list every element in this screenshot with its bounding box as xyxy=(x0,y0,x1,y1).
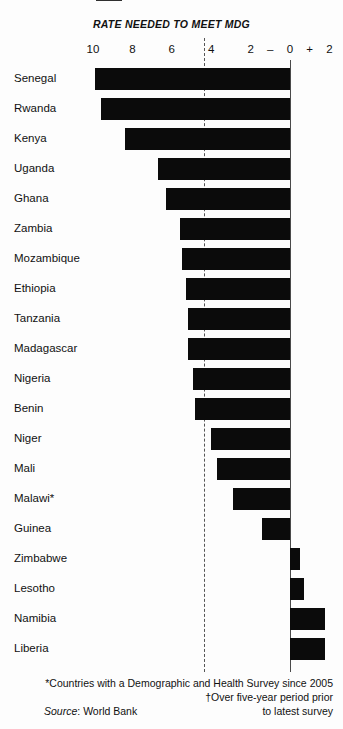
country-label: Mali xyxy=(14,462,35,474)
country-label: Nigeria xyxy=(14,372,50,384)
bar-row: Kenya xyxy=(0,120,343,150)
bar-row: Zambia xyxy=(0,210,343,240)
bar-row: Lesotho xyxy=(0,570,343,600)
country-label: Liberia xyxy=(14,642,49,654)
country-label: Tanzania xyxy=(14,312,60,324)
footnote-dagger-continued: to latest survey xyxy=(262,704,333,718)
bar-ethiopia xyxy=(186,278,290,300)
bar-row: Niger xyxy=(0,420,343,450)
x-tick-: + xyxy=(306,43,313,55)
bar-row: Zimbabwe xyxy=(0,540,343,570)
source-credit: Source: World Bank xyxy=(44,704,137,718)
bar-row: Madagascar xyxy=(0,330,343,360)
bar-row: Uganda xyxy=(0,150,343,180)
bar-row: Malawi* xyxy=(0,480,343,510)
footnote-asterisk: *Countries with a Demographic and Health… xyxy=(0,676,343,690)
x-tick-2: 2 xyxy=(326,43,332,55)
x-tick-6: 6 xyxy=(169,43,175,55)
bar-lesotho xyxy=(290,578,304,600)
country-label: Zimbabwe xyxy=(14,552,67,564)
bar-row: Mali xyxy=(0,450,343,480)
country-label: Lesotho xyxy=(14,582,55,594)
bar-liberia xyxy=(290,638,325,660)
bar-nigeria xyxy=(193,368,290,390)
country-label: Senegal xyxy=(14,72,56,84)
footnote-source-row: Source: World Bank to latest survey xyxy=(0,704,343,718)
bar-tanzania xyxy=(188,308,290,330)
country-label: Ethiopia xyxy=(14,282,56,294)
bar-row: Rwanda xyxy=(0,90,343,120)
country-label: Guinea xyxy=(14,522,51,534)
bar-row: Tanzania xyxy=(0,300,343,330)
bar-row: Namibia xyxy=(0,600,343,630)
country-label: Madagascar xyxy=(14,342,77,354)
x-tick-: – xyxy=(267,43,273,55)
title-fragment-clipped xyxy=(96,0,122,1)
bar-zimbabwe xyxy=(290,548,300,570)
bar-guinea xyxy=(262,518,290,540)
bar-row: Mozambique xyxy=(0,240,343,270)
bar-kenya xyxy=(125,128,290,150)
bar-row: Ethiopia xyxy=(0,270,343,300)
country-label: Namibia xyxy=(14,612,56,624)
bar-ghana xyxy=(166,188,290,210)
bar-row: Nigeria xyxy=(0,360,343,390)
bar-row: Benin xyxy=(0,390,343,420)
country-label: Rwanda xyxy=(14,102,56,114)
bar-madagascar xyxy=(188,338,290,360)
country-label: Kenya xyxy=(14,132,47,144)
footnote-dagger: †Over five-year period prior xyxy=(0,690,343,704)
mdg-reference-caption: RATE NEEDED TO MEET MDG xyxy=(0,18,343,30)
bar-malawi xyxy=(233,488,290,510)
bar-niger xyxy=(211,428,290,450)
bar-senegal xyxy=(95,68,290,90)
bar-benin xyxy=(195,398,290,420)
x-tick-8: 8 xyxy=(129,43,135,55)
bar-namibia xyxy=(290,608,325,630)
bar-row: Liberia xyxy=(0,630,343,660)
x-tick-10: 10 xyxy=(87,43,100,55)
country-label: Uganda xyxy=(14,162,54,174)
source-value: World Bank xyxy=(83,705,137,717)
country-label: Zambia xyxy=(14,222,52,234)
bar-row: Ghana xyxy=(0,180,343,210)
bar-row: Guinea xyxy=(0,510,343,540)
bar-mozambique xyxy=(182,248,290,270)
bar-mali xyxy=(217,458,290,480)
country-label: Niger xyxy=(14,432,41,444)
country-label: Benin xyxy=(14,402,43,414)
country-label: Malawi* xyxy=(14,492,54,504)
x-tick-4: 4 xyxy=(208,43,214,55)
country-label: Ghana xyxy=(14,192,49,204)
footnotes: *Countries with a Demographic and Health… xyxy=(0,676,343,718)
bar-row: Senegal xyxy=(0,60,343,90)
source-label: Source xyxy=(44,705,77,717)
bar-zambia xyxy=(180,218,290,240)
bar-rwanda xyxy=(101,98,290,120)
chart-root: RATE NEEDED TO MEET MDG 108642–0+2 Seneg… xyxy=(0,0,343,729)
country-label: Mozambique xyxy=(14,252,80,264)
x-tick-0: 0 xyxy=(287,43,293,55)
bar-uganda xyxy=(158,158,290,180)
x-tick-2: 2 xyxy=(247,43,253,55)
plot-area: SenegalRwandaKenyaUgandaGhanaZambiaMozam… xyxy=(0,60,343,672)
